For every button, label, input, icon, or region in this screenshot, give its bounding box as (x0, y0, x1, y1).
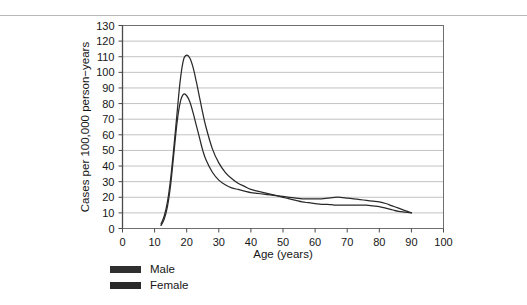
plot-frame-group (123, 26, 444, 229)
legend-group: MaleFemale (110, 263, 188, 291)
x-tick-label-40: 40 (245, 236, 257, 248)
x-axis-group: 0102030405060708090100 (119, 229, 452, 248)
y-tick-label-80: 80 (102, 98, 114, 110)
y-tick-label-130: 130 (96, 20, 114, 32)
x-tick-label-50: 50 (277, 236, 289, 248)
series-group (161, 55, 411, 225)
x-tick-label-0: 0 (119, 236, 125, 248)
legend-label-male: Male (150, 263, 175, 275)
y-tick-label-10: 10 (102, 207, 114, 219)
y-tick-label-60: 60 (102, 129, 114, 141)
figure-root: 0102030405060708090100110120130 01020304… (0, 0, 527, 305)
legend-label-female: Female (150, 279, 188, 291)
x-tick-label-20: 20 (181, 236, 193, 248)
series-line-male (161, 55, 411, 224)
x-tick-label-60: 60 (309, 236, 321, 248)
y-tick-label-70: 70 (102, 113, 114, 125)
y-tick-label-30: 30 (102, 176, 114, 188)
x-tick-label-30: 30 (213, 236, 225, 248)
y-tick-label-120: 120 (96, 35, 114, 47)
y-axis-group: 0102030405060708090100110120130 (96, 20, 122, 235)
y-tick-label-0: 0 (108, 223, 114, 235)
y-tick-label-100: 100 (96, 66, 114, 78)
y-tick-label-20: 20 (102, 191, 114, 203)
y-tick-label-110: 110 (97, 51, 115, 63)
y-axis-title: Cases per 100,000 person−years (79, 42, 91, 213)
y-tick-label-50: 50 (102, 144, 114, 156)
plot-area-frame (123, 26, 444, 229)
y-tick-label-90: 90 (102, 82, 114, 94)
legend-swatch-female (110, 282, 141, 289)
incidence-by-age-line-chart: 0102030405060708090100110120130 01020304… (0, 0, 527, 305)
y-tick-label-40: 40 (102, 160, 114, 172)
x-tick-label-70: 70 (341, 236, 353, 248)
x-tick-label-10: 10 (148, 236, 160, 248)
legend-swatch-male (110, 266, 141, 273)
x-tick-label-80: 80 (373, 236, 385, 248)
x-tick-label-90: 90 (405, 236, 417, 248)
x-tick-label-100: 100 (434, 236, 452, 248)
x-axis-title: Age (years) (253, 248, 313, 260)
